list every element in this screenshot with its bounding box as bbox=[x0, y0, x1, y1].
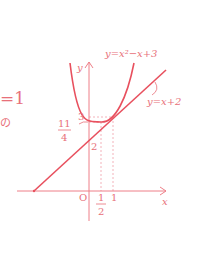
tick-label-y-2: 2 bbox=[91, 141, 97, 152]
line-y-equals-x-plus-2 bbox=[34, 70, 166, 191]
label-line: y=x+2 bbox=[146, 96, 181, 107]
tick-label-x-1: 1 bbox=[111, 192, 117, 203]
leader-line-label bbox=[152, 82, 157, 95]
label-parabola: y=x²−x+3 bbox=[104, 48, 157, 59]
fraction-denominator: 2 bbox=[98, 206, 104, 217]
dashed-guides bbox=[89, 117, 113, 191]
fraction-numerator: 1 bbox=[98, 192, 104, 203]
fraction-numerator: 11 bbox=[58, 118, 71, 129]
line-x-intercept-point bbox=[33, 190, 35, 192]
fraction-one-half: 1 2 bbox=[96, 192, 106, 217]
label-x-axis: x bbox=[162, 196, 168, 207]
label-y-axis: y bbox=[76, 62, 83, 73]
leader-eleven-fourths bbox=[79, 122, 88, 124]
label-origin: O bbox=[79, 192, 87, 203]
graph-figure: y=x²−x+3 y=x+2 y x O 3 2 11 4 1 2 1 bbox=[0, 0, 212, 254]
fraction-denominator: 4 bbox=[61, 132, 67, 143]
tick-label-y-3: 3 bbox=[78, 111, 84, 122]
fraction-eleven-fourths: 11 4 bbox=[58, 118, 71, 143]
